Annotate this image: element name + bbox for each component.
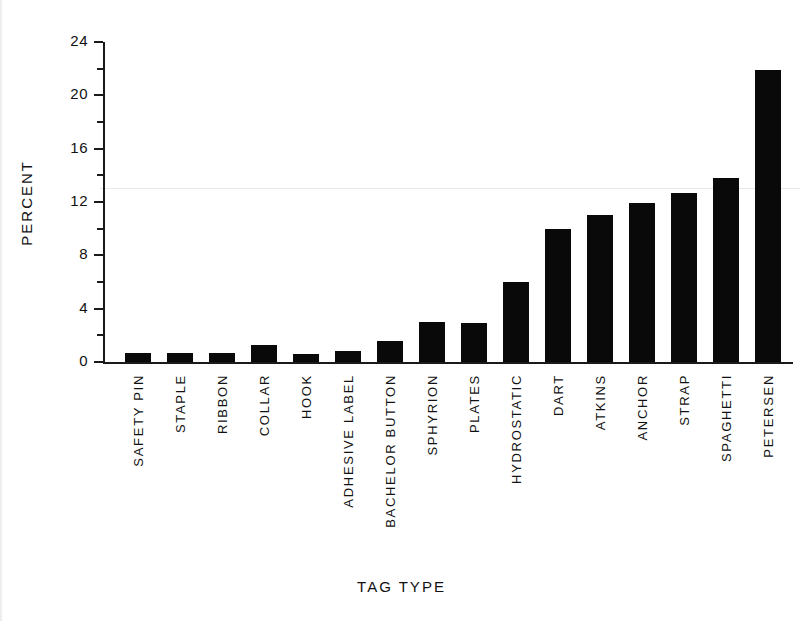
y-tick-label: 4: [79, 299, 88, 316]
x-category-label: PETERSEN: [761, 374, 776, 458]
bar-slot: [621, 42, 663, 362]
bar-slot: [411, 42, 453, 362]
x-category-label: BACHELOR BUTTON: [383, 374, 398, 528]
bar-slot: [453, 42, 495, 362]
bar: [713, 178, 739, 362]
bar-slot: [537, 42, 579, 362]
x-category-label: STRAP: [677, 374, 692, 426]
y-tick-major: [94, 41, 103, 43]
bar-slot: [327, 42, 369, 362]
bar: [377, 341, 403, 362]
y-tick-major: [94, 308, 103, 310]
y-tick-major: [94, 361, 103, 363]
y-axis-tick-labels: 04812162024: [0, 0, 88, 621]
y-tick-label: 20: [70, 85, 88, 102]
x-category-label: HYDROSTATIC: [509, 374, 524, 484]
x-category-label: RIBBON: [215, 374, 230, 434]
y-tick-major: [94, 201, 103, 203]
bar-slot: [117, 42, 159, 362]
x-category-label: PLATES: [467, 374, 482, 433]
y-tick-major: [94, 254, 103, 256]
x-category-label: SPAGHETTI: [719, 374, 734, 462]
bar-slot: [159, 42, 201, 362]
x-category-label: ADHESIVE LABEL: [341, 374, 356, 508]
x-axis-line: [103, 362, 793, 364]
y-tick-label: 16: [70, 139, 88, 156]
bar: [755, 70, 781, 362]
bar-slot: [369, 42, 411, 362]
bar-slot: [663, 42, 705, 362]
bar: [503, 282, 529, 362]
bar: [545, 229, 571, 362]
bar: [167, 353, 193, 362]
bar: [461, 323, 487, 362]
x-category-label: COLLAR: [257, 374, 272, 436]
x-category-label: SPHYRION: [425, 374, 440, 456]
bar-slot: [285, 42, 327, 362]
bar-slot: [579, 42, 621, 362]
y-tick-label: 12: [70, 192, 88, 209]
bar-slot: [747, 42, 789, 362]
x-category-label: ATKINS: [593, 374, 608, 430]
bar-slot: [495, 42, 537, 362]
bar: [419, 322, 445, 362]
bar-slot: [201, 42, 243, 362]
bar: [251, 345, 277, 362]
bar: [587, 215, 613, 362]
bar: [629, 203, 655, 362]
bar: [671, 193, 697, 362]
y-tick-label: 0: [79, 352, 88, 369]
bar: [125, 353, 151, 362]
x-axis-title: TAG TYPE: [0, 578, 803, 595]
y-tick-label: 24: [70, 32, 88, 49]
x-category-label: STAPLE: [173, 374, 188, 433]
x-category-label: SAFETY PIN: [131, 374, 146, 467]
bar-chart-figure: PERCENT 04812162024 SAFETY PINSTAPLERIBB…: [0, 0, 803, 621]
bar-slot: [705, 42, 747, 362]
x-category-label: DART: [551, 374, 566, 416]
x-category-label: HOOK: [299, 374, 314, 419]
bar: [209, 353, 235, 362]
bar-slot: [243, 42, 285, 362]
y-tick-major: [94, 148, 103, 150]
y-tick-major: [94, 94, 103, 96]
bar: [293, 354, 319, 362]
bar-series: [103, 42, 793, 362]
y-tick-label: 8: [79, 245, 88, 262]
bar: [335, 351, 361, 362]
x-category-label: ANCHOR: [635, 374, 650, 441]
